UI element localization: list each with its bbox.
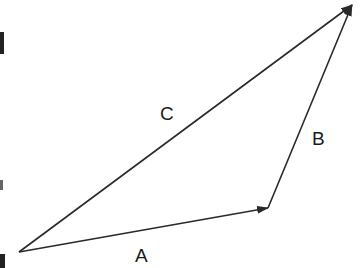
vector-diagram: A B C — [0, 0, 360, 268]
vector-c-arrow — [19, 5, 352, 252]
vector-b-label: B — [312, 128, 325, 149]
vector-a-label: A — [135, 245, 148, 266]
vector-c-label: C — [160, 103, 174, 124]
